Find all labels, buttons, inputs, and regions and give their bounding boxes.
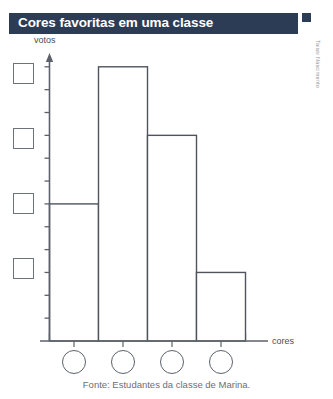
- answer-square-1[interactable]: [13, 63, 34, 84]
- answer-circle-4[interactable]: [209, 350, 233, 374]
- bar: [99, 67, 148, 341]
- answer-square-4[interactable]: [13, 258, 34, 279]
- y-axis-arrowhead: [46, 53, 53, 62]
- bar: [148, 135, 197, 341]
- source-note: Fonte: Estudantes da classe de Marina.: [0, 379, 333, 390]
- answer-square-2[interactable]: [13, 128, 34, 149]
- answer-circle-2[interactable]: [111, 350, 135, 374]
- bar: [197, 272, 246, 341]
- answer-circle-3[interactable]: [160, 350, 184, 374]
- answer-circle-1[interactable]: [62, 350, 86, 374]
- bar-series: [50, 67, 246, 341]
- worksheet-page: Cores favoritas em uma classe Taiasi Nas…: [0, 0, 333, 399]
- bar: [50, 204, 99, 341]
- bar-chart: [0, 0, 333, 399]
- answer-square-3[interactable]: [13, 193, 34, 214]
